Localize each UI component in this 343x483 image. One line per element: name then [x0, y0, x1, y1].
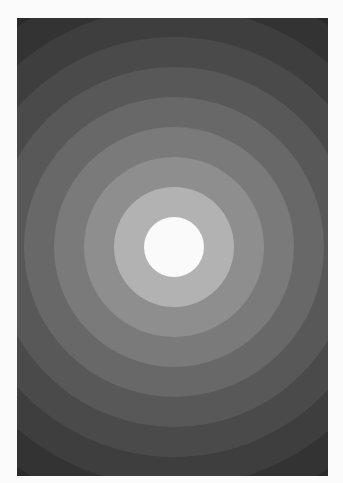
concentric-circles-panel [17, 18, 328, 476]
center-disc [144, 217, 204, 277]
image-canvas [0, 0, 343, 483]
